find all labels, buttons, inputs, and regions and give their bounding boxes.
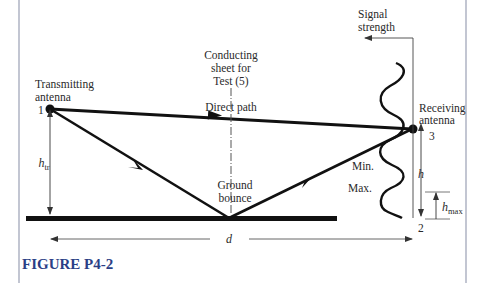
conducting-sheet-label-line2: sheet for (211, 62, 251, 74)
h-tr-label: htr (38, 156, 49, 172)
ground-bounce-label-line1: Ground (217, 179, 252, 191)
two-ray-propagation-diagram: Transmitting antenna 1 Conducting sheet … (0, 0, 488, 283)
signal-strength-curve (380, 63, 404, 218)
h-label: h (418, 167, 424, 181)
ground-plane-right (169, 216, 337, 221)
ground-plane (26, 216, 169, 221)
transmitting-antenna-label-line1: Transmitting (35, 78, 94, 91)
point-2-label: 2 (418, 222, 424, 234)
max-label: Max. (348, 182, 372, 194)
conducting-sheet-label-line1: Conducting (204, 49, 258, 62)
receiving-antenna-label-line2: antenna (419, 114, 455, 126)
signal-strength-label-line1: Signal (358, 8, 387, 21)
direct-path-label: Direct path (205, 101, 257, 114)
d-label: d (226, 232, 233, 246)
incident-ray-line (50, 109, 229, 218)
figure-caption: FIGURE P4-2 (22, 256, 113, 272)
signal-strength-label-line2: strength (358, 21, 395, 34)
point-3-label: 3 (429, 130, 435, 142)
point-1-label: 1 (38, 104, 44, 116)
conducting-sheet-label-line3: Test (5) (213, 75, 248, 88)
transmitting-antenna-point (46, 105, 55, 114)
transmitting-antenna-label-line2: antenna (35, 91, 71, 103)
h-max-label: hmax (442, 200, 463, 216)
ground-bounce-label-line2: bounce (218, 192, 251, 204)
min-label: Min. (352, 160, 374, 172)
